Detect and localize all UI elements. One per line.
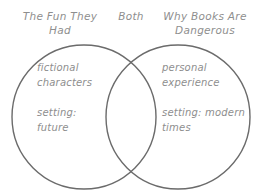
venn-left-item: setting: future: [37, 105, 109, 135]
venn-left-item: fictional characters: [37, 60, 109, 90]
venn-circles: [0, 0, 262, 196]
venn-right-item: personal experience: [162, 60, 248, 90]
venn-diagram: The Fun They Had Both Why Books Are Dang…: [0, 0, 262, 196]
venn-right-item: setting: modern times: [162, 105, 250, 135]
